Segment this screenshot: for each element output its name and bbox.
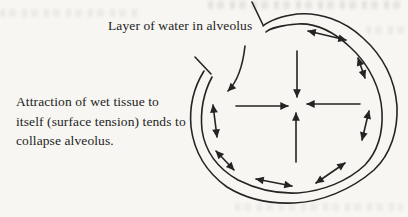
surface-tension-arrows	[213, 31, 369, 186]
surface-tension-arrow	[308, 31, 346, 40]
water-layer-curved-arrow	[228, 46, 245, 91]
surface-tension-arrow	[216, 151, 234, 170]
surface-tension-arrow	[358, 58, 365, 78]
surface-tension-arrow	[213, 105, 217, 137]
water-layer-leader-line	[252, 2, 263, 25]
surface-tension-arrow	[256, 179, 292, 186]
alveolus-diagram	[0, 0, 408, 217]
textbook-figure-page: Layer of water in alveolus Attraction of…	[0, 0, 408, 217]
surface-tension-arrow	[362, 111, 369, 140]
alveolus-outer-wall	[191, 14, 398, 203]
collapse-arrows	[236, 51, 360, 162]
alveolus-inner-wall	[201, 24, 382, 193]
surface-tension-arrow	[316, 163, 345, 183]
